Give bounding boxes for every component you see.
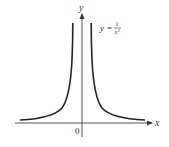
equation-lhs: y: [99, 23, 104, 33]
curve-left-branch: [20, 23, 73, 120]
equation-numerator: 1: [116, 21, 119, 27]
function-graph: y x 0 y = 1 x 2: [0, 0, 169, 147]
y-axis-label: y: [78, 2, 84, 13]
equation-label: y = 1 x 2: [99, 21, 121, 35]
curve-right-branch: [91, 23, 145, 120]
equation-equals: =: [107, 23, 112, 33]
x-axis-label: x: [154, 117, 160, 128]
equation-denominator-base: x: [114, 29, 118, 35]
equation-denominator-exponent: 2: [118, 28, 120, 33]
origin-label: 0: [75, 126, 80, 136]
